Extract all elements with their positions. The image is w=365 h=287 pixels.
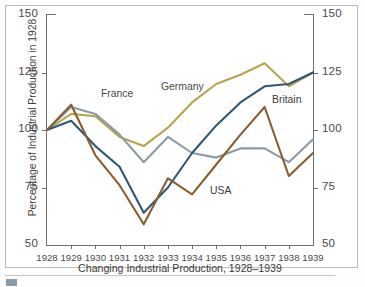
plot-top-rule-right: [304, 14, 314, 15]
figure-container: Percentage of Industrial Production in 1…: [0, 0, 365, 287]
page-corner-marker: [6, 279, 17, 286]
y-tick-label-left-100: 100: [8, 122, 38, 134]
y-tick-label-right-100: 100: [322, 122, 352, 134]
x-tickmark-1937: [265, 245, 266, 249]
y-tickmark-left-100: [42, 130, 47, 131]
x-tickmark-1936: [240, 245, 241, 249]
caption-divider: [5, 275, 335, 276]
y-tick-label-right-150: 150: [322, 7, 352, 19]
x-tickmark-1934: [192, 245, 193, 249]
y-tick-label-left-75: 75: [8, 180, 38, 192]
x-tickmark-1929: [71, 245, 72, 249]
plot-area: [46, 14, 314, 246]
y-tick-label-left-150: 150: [8, 7, 38, 19]
x-tickmark-1930: [95, 245, 96, 249]
x-tickmark-1933: [168, 245, 169, 249]
y-tick-label-left-125: 125: [8, 65, 38, 77]
y-tick-label-right-75: 75: [322, 180, 352, 192]
x-tickmark-1931: [120, 245, 121, 249]
plot-top-rule-left: [46, 14, 56, 15]
y-tickmark-right-100: [313, 130, 318, 131]
y-tickmark-left-75: [42, 188, 47, 189]
x-tickmark-1932: [144, 245, 145, 249]
y-tickmark-right-125: [313, 73, 318, 74]
series-label-germany: Germany: [161, 81, 204, 92]
y-tick-label-right-50: 50: [322, 237, 352, 249]
x-tickmark-1938: [289, 245, 290, 249]
series-label-france: France: [101, 88, 133, 99]
series-label-usa: USA: [210, 185, 231, 196]
series-label-britain: Britain: [272, 94, 301, 105]
y-tick-label-right-125: 125: [322, 65, 352, 77]
y-tickmark-right-75: [313, 188, 318, 189]
y-tickmark-left-125: [42, 73, 47, 74]
x-tickmark-1935: [216, 245, 217, 249]
chart-caption: Changing Industrial Production, 1928–193…: [46, 262, 314, 274]
y-tick-label-left-50: 50: [8, 237, 38, 249]
